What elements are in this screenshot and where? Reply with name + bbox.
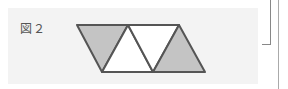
triangle-figure (0, 0, 288, 89)
margin-bracket (262, 0, 271, 45)
margin-rule (278, 0, 279, 89)
